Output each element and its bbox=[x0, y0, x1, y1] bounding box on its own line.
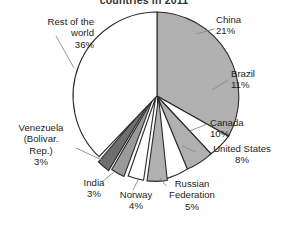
pie-label-canada-value: 10% bbox=[210, 128, 280, 139]
pie-label-norway: Norway 4% bbox=[108, 189, 164, 212]
pie-label-rest-of-the-world-value: 36% bbox=[4, 39, 94, 50]
pie-label-canada: Canada 10% bbox=[210, 117, 280, 140]
pie-label-russian-federation-line2: Federation bbox=[157, 189, 227, 200]
pie-label-china-value: 21% bbox=[216, 25, 286, 36]
pie-label-india-line1: India bbox=[72, 177, 116, 188]
pie-label-india: India 3% bbox=[72, 177, 116, 200]
pie-label-norway-line1: Norway bbox=[108, 189, 164, 200]
pie-label-venezuela-line2: (Bolivar. bbox=[2, 133, 80, 144]
pie-label-venezuela-value: 3% bbox=[2, 156, 80, 167]
pie-label-venezuela-line3: Rep.) bbox=[2, 145, 80, 156]
pie-chart: countries in 2011 Rest of the worl bbox=[0, 0, 288, 229]
pie-label-india-value: 3% bbox=[72, 188, 116, 199]
pie-label-russian-federation-value: 5% bbox=[157, 201, 227, 212]
pie-label-rest-of-the-world-line1: Rest of the bbox=[4, 16, 94, 27]
pie-label-venezuela-line1: Venezuela bbox=[2, 122, 80, 133]
pie-label-russian-federation-line1: Russian bbox=[157, 178, 227, 189]
pie-label-united-states: United States 8% bbox=[198, 143, 286, 166]
pie-label-china-line1: China bbox=[216, 14, 286, 25]
pie-label-rest-of-the-world: Rest of the world 36% bbox=[4, 16, 94, 50]
pie-label-united-states-line1: United States bbox=[198, 143, 286, 154]
pie-label-brazil: Brazil 11% bbox=[231, 68, 287, 91]
pie-label-china: China 21% bbox=[216, 14, 286, 37]
pie-label-norway-value: 4% bbox=[108, 200, 164, 211]
pie-label-russian-federation: Russian Federation 5% bbox=[157, 178, 227, 212]
pie-label-brazil-value: 11% bbox=[231, 79, 287, 90]
pie-label-canada-line1: Canada bbox=[210, 117, 280, 128]
pie-label-venezuela: Venezuela (Bolivar. Rep.) 3% bbox=[2, 122, 80, 168]
pie-label-rest-of-the-world-line2: world bbox=[4, 27, 94, 38]
pie-label-united-states-value: 8% bbox=[198, 154, 286, 165]
pie-label-brazil-line1: Brazil bbox=[231, 68, 287, 79]
